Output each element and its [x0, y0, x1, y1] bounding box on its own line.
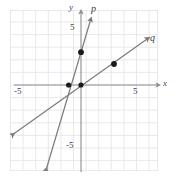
line-p-label: p — [91, 4, 96, 14]
x-tick-neg5: -5 — [14, 87, 22, 96]
y-tick-5: 5 — [70, 23, 75, 32]
x-tick-5: 5 — [133, 87, 138, 96]
point-q-origin — [78, 82, 83, 87]
line-q-label: q — [150, 33, 155, 43]
graph-canvas — [0, 0, 178, 181]
y-tick-neg5: -5 — [66, 141, 74, 150]
y-axis-label: y — [69, 3, 73, 12]
coordinate-plane-figure: y x p q 5 -5 -5 5 — [0, 0, 178, 181]
x-axis-label: x — [163, 79, 167, 88]
point-q-upper — [111, 61, 117, 67]
point-p-x-intercept — [66, 82, 71, 87]
point-p-y-intercept — [78, 49, 84, 55]
